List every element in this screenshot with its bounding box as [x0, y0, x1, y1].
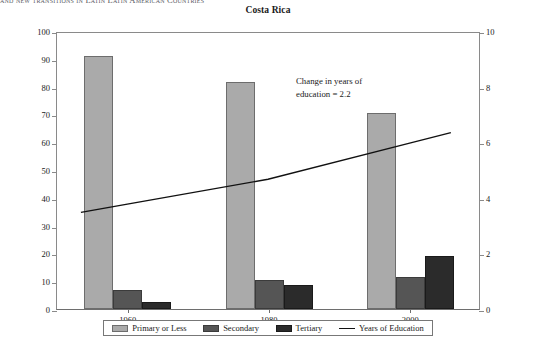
y-axis-left-tick-label: 60 [42, 139, 51, 148]
secondary-swatch-icon [203, 325, 219, 332]
y-axis-left-tick-mark [52, 311, 57, 312]
plot-area: 0102030405060708090100024681019601980200… [56, 32, 480, 310]
bar-tertiary-1960 [142, 302, 171, 309]
bar-tertiary-1980 [284, 285, 313, 309]
y-axis-left-tick-mark [52, 283, 57, 284]
y-axis-left-tick-mark [52, 200, 57, 201]
y-axis-left-tick-mark [52, 89, 57, 90]
y-axis-right-tick-mark [479, 144, 484, 145]
y-axis-left-tick-mark [52, 228, 57, 229]
y-axis-right-tick-label: 8 [486, 84, 490, 93]
bar-secondary-1960 [113, 290, 142, 309]
y-axis-left-tick-label: 90 [42, 56, 51, 65]
legend-item-tertiary[interactable]: Tertiary [276, 323, 323, 333]
y-axis-left-tick-mark [52, 33, 57, 34]
bar-primary-or-less-2000 [367, 113, 396, 309]
y-axis-right-tick-mark [479, 200, 484, 201]
primary-swatch-icon [112, 325, 128, 332]
y-axis-left-tick-label: 40 [42, 195, 51, 204]
y-axis-left-tick-mark [52, 116, 57, 117]
change-in-years-annotation: Change in years of education = 2.2 [296, 75, 362, 100]
legend-item-secondary[interactable]: Secondary [203, 323, 259, 333]
y-axis-left-tick-label: 100 [37, 28, 50, 37]
y-axis-left-tick-label: 30 [42, 223, 51, 232]
y-axis-left-tick-mark [52, 172, 57, 173]
y-axis-left-tick-mark [52, 144, 57, 145]
y-axis-right-tick-mark [479, 255, 484, 256]
chart-legend: Primary or LessSecondaryTertiaryYears of… [103, 320, 433, 336]
y-axis-left-tick-label: 0 [46, 306, 50, 315]
bar-primary-or-less-1960 [84, 56, 113, 309]
y-axis-right-tick-mark [479, 311, 484, 312]
tertiary-swatch-icon [276, 325, 292, 332]
plot-inner: 0102030405060708090100024681019601980200… [57, 33, 479, 309]
legend-item-years-of-education[interactable]: Years of Education [339, 323, 424, 333]
y-axis-left-tick-label: 80 [42, 84, 51, 93]
legend-item-label: Primary or Less [132, 323, 186, 333]
bar-secondary-1980 [255, 280, 284, 309]
chart-title: Costa Rica [0, 5, 536, 15]
legend-item-label: Tertiary [296, 323, 323, 333]
y-axis-left-tick-label: 70 [42, 111, 51, 120]
legend-item-primary-or-less[interactable]: Primary or Less [112, 323, 186, 333]
y-axis-right-tick-label: 6 [486, 139, 490, 148]
y-axis-left-tick-label: 20 [42, 250, 51, 259]
y-axis-left-tick-label: 50 [42, 167, 51, 176]
legend-item-label: Years of Education [359, 323, 424, 333]
y-axis-left-tick-label: 10 [42, 278, 51, 287]
bar-secondary-2000 [396, 277, 425, 309]
bar-tertiary-2000 [425, 256, 454, 309]
y-axis-right-tick-label: 4 [486, 195, 490, 204]
y-axis-right-tick-label: 2 [486, 250, 490, 259]
y-axis-right-tick-mark [479, 89, 484, 90]
y-axis-left-tick-mark [52, 255, 57, 256]
y-axis-right-tick-label: 10 [486, 28, 495, 37]
y-axis-right-tick-label: 0 [486, 306, 490, 315]
y-axis-right-tick-mark [479, 33, 484, 34]
bar-primary-or-less-1980 [226, 82, 255, 309]
y-axis-left-tick-mark [52, 61, 57, 62]
legend-item-label: Secondary [223, 323, 259, 333]
line-swatch-icon [339, 325, 355, 332]
